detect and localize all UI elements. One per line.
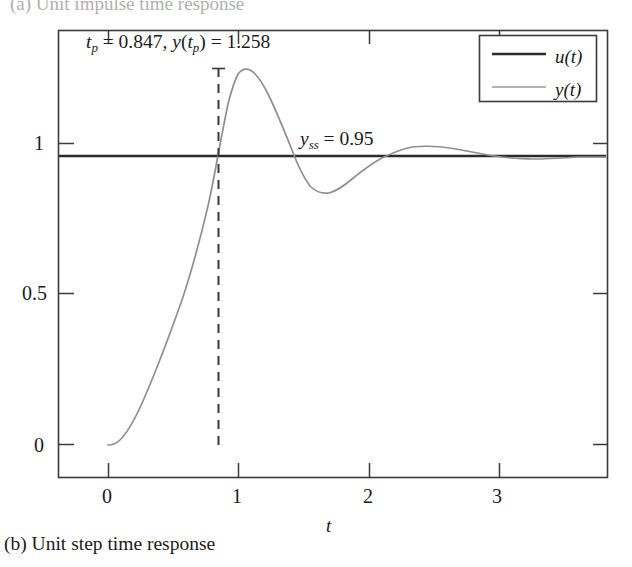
plot-canvas — [0, 0, 632, 567]
peak-annotation: tp = 0.847, y(tp) = 1.258 — [86, 32, 270, 54]
steady-state-eq: = 0.95 — [319, 128, 374, 149]
x-axis-title: t — [326, 516, 331, 535]
x-tick-label-1: 1 — [232, 486, 242, 506]
steady-state-var-y: y — [300, 128, 309, 149]
peak-annotation-eq1: = 0.847, — [98, 31, 172, 52]
steady-state-sub-ss: ss — [309, 138, 319, 152]
legend-label-u: u(t) — [555, 47, 582, 66]
y-tick-label-1: 1 — [34, 133, 44, 153]
legend-label-y: y(t) — [555, 80, 581, 99]
y-tick-label-0.5: 0.5 — [22, 283, 47, 303]
peak-annotation-eq2: = 1.258 — [206, 31, 271, 52]
x-tick-label-0: 0 — [102, 486, 112, 506]
y-tick-label-0: 0 — [34, 435, 44, 455]
peak-annotation-var-y: y — [172, 31, 181, 52]
x-tick-label-3: 3 — [492, 486, 502, 506]
x-tick-label-2: 2 — [363, 486, 373, 506]
figure-caption: (b) Unit step time response — [4, 534, 215, 554]
figure-unit-step-time-response: (a) Unit impulse time response — [0, 0, 632, 567]
steady-state-annotation: yss = 0.95 — [300, 129, 374, 151]
